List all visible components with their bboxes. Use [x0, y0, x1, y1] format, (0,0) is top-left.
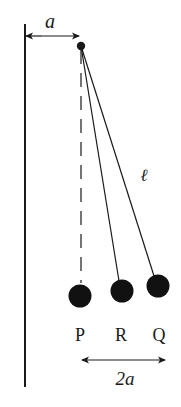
- diagram-svg: a ℓ P R Q 2a: [0, 0, 181, 407]
- separation-label: 2a: [116, 368, 135, 389]
- string-r: [81, 46, 119, 281]
- pendulum-diagram: a ℓ P R Q 2a: [0, 0, 181, 407]
- ball-r: [111, 280, 134, 303]
- length-label: ℓ: [140, 166, 147, 185]
- label-q: Q: [153, 325, 166, 345]
- label-r: R: [115, 325, 127, 345]
- string-q: [81, 46, 154, 276]
- ball-q: [147, 275, 170, 298]
- distance-a-label: a: [45, 10, 55, 32]
- pivot-point: [77, 42, 85, 50]
- label-p: P: [75, 325, 85, 345]
- ball-p: [69, 285, 92, 308]
